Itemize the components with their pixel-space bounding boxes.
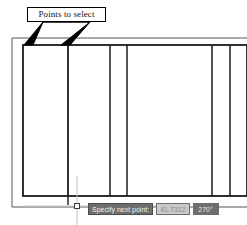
dynamic-input-prompt: Specify next point:	[88, 203, 153, 215]
callout-label: Points to select	[38, 10, 94, 19]
callout-box: Points to select	[27, 7, 106, 22]
pickbox-cursor-icon	[74, 203, 80, 209]
inner-frame-rect	[23, 45, 247, 196]
dynamic-input-distance-field[interactable]: 41.7312	[156, 203, 189, 215]
mullion-dividers	[68, 45, 230, 196]
degree-symbol-icon: °	[210, 206, 213, 213]
cad-drawing-canvas[interactable]: Points to select Specify next point: 41.…	[0, 0, 247, 225]
leader-arrow-right	[61, 22, 90, 45]
leader-arrow-left	[24, 22, 43, 45]
drawing-geometry	[0, 0, 247, 225]
dynamic-input-tooltip[interactable]: Specify next point: 41.7312 270°	[88, 203, 219, 215]
angle-value: 270	[198, 206, 210, 213]
dynamic-input-angle-field[interactable]: 270°	[193, 203, 219, 215]
crosshair-lines	[23, 176, 180, 225]
callout-leader-lines	[24, 22, 90, 45]
